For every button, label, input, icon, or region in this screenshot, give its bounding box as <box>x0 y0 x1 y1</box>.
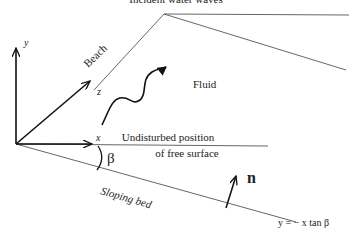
z-axis-label: z <box>96 86 101 97</box>
fluid-label: Fluid <box>193 78 217 90</box>
top-slope-line <box>164 14 346 70</box>
normal-arrow <box>226 176 236 208</box>
beach-label: Beach <box>81 41 109 69</box>
top-horizontal-line <box>164 14 349 15</box>
z-axis-arrow <box>16 81 90 144</box>
bed-equation: y = − x tan β <box>278 217 329 228</box>
bed-label: Sloping bed <box>99 184 153 210</box>
x-axis-label: x <box>95 132 101 143</box>
title-cutoff: Incident water waves <box>129 0 222 5</box>
wave-arrow <box>102 67 166 125</box>
surface-label-line2: of free surface <box>155 147 219 159</box>
surface-label-line1: Undisturbed position <box>122 131 215 143</box>
y-axis-label: y <box>23 37 29 48</box>
beach-diagram: Incident water waves y x z Beach Fluid U… <box>0 0 355 234</box>
angle-beta-label: β <box>107 150 115 166</box>
normal-label: n <box>247 169 256 186</box>
